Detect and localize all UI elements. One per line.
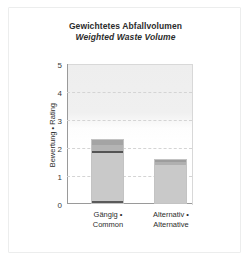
y-tick-label-5: 5 bbox=[58, 61, 62, 70]
chart-card: Gewichtetes Abfallvolumen Weighted Waste… bbox=[8, 7, 241, 253]
y-tick-label-1: 1 bbox=[58, 173, 62, 182]
x-tick-label-1: Alternativ • Alternative bbox=[153, 210, 189, 230]
bar-segment-lower-body bbox=[155, 165, 186, 203]
bar-gaengig-common[interactable] bbox=[91, 139, 124, 204]
gridline-4: 4 bbox=[67, 92, 192, 93]
bar-segment-upper-body bbox=[92, 145, 123, 151]
gridline-5: 5 bbox=[67, 64, 192, 65]
x-tick-label-0-line-2: Common bbox=[93, 220, 123, 230]
x-tick-label-1-line-2: Alternative bbox=[153, 220, 189, 230]
y-tick-label-2: 2 bbox=[58, 145, 62, 154]
y-axis-line bbox=[67, 64, 68, 204]
bar-segment-top-cap bbox=[155, 159, 186, 162]
x-tick-label-0: Gängig • Common bbox=[93, 210, 123, 230]
plot-area: 5 4 3 2 1 0 bbox=[67, 64, 192, 204]
x-tick-label-1-line-1: Alternativ • bbox=[153, 210, 189, 220]
bar-segment-mid-divider bbox=[92, 151, 123, 153]
bar-alternativ-alternative[interactable] bbox=[154, 159, 187, 204]
bar-segment-top-cap bbox=[92, 139, 123, 145]
y-tick-label-4: 4 bbox=[58, 89, 62, 98]
gridline-0: 0 bbox=[67, 204, 192, 205]
y-tick-label-0: 0 bbox=[58, 201, 62, 210]
chart-subtitle: Weighted Waste Volume bbox=[9, 32, 242, 43]
y-axis-label: Bewertung • Rating bbox=[48, 103, 57, 167]
bar-segment-base-dark bbox=[92, 201, 123, 203]
chart-title: Gewichtetes Abfallvolumen bbox=[9, 21, 242, 32]
gridline-2: 2 bbox=[67, 148, 192, 149]
bar-segment-upper-body bbox=[155, 162, 186, 165]
bar-segment-lower-body bbox=[92, 153, 123, 201]
gridline-3: 3 bbox=[67, 120, 192, 121]
y-tick-label-3: 3 bbox=[58, 117, 62, 126]
x-tick-label-0-line-1: Gängig • bbox=[93, 210, 123, 220]
